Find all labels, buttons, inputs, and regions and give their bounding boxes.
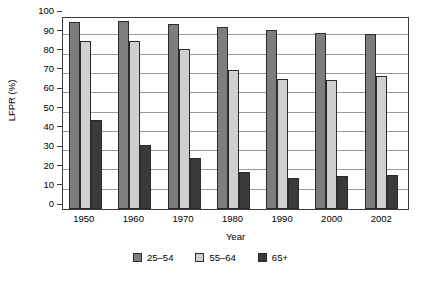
y-axis-tick-label: 50 xyxy=(43,103,57,113)
bar-group xyxy=(162,18,211,209)
bar-group xyxy=(112,18,161,209)
y-axis-tick: 90 xyxy=(43,24,62,36)
y-axis-tick-label: 60 xyxy=(43,83,57,93)
legend-item[interactable]: 25–54 xyxy=(133,252,173,263)
y-axis-tick-label: 20 xyxy=(43,161,57,171)
x-axis-tick-label: 1970 xyxy=(161,212,211,228)
x-axis-tick-label: 1990 xyxy=(260,212,310,228)
y-axis-tick-label: 90 xyxy=(43,26,57,36)
y-axis-tick-label: 10 xyxy=(43,180,57,190)
x-axis-tick-label: 2000 xyxy=(310,212,360,228)
legend-item[interactable]: 55–64 xyxy=(195,252,235,263)
bar xyxy=(387,175,398,209)
y-axis-tick: 70 xyxy=(43,63,62,75)
chart-figure: LFPR (%) 0102030405060708090100 19501960… xyxy=(0,0,421,282)
y-axis-tick-label: 100 xyxy=(38,6,57,16)
plot-area xyxy=(62,17,409,210)
y-axis-tick: 0 xyxy=(49,198,62,210)
bar xyxy=(168,24,179,209)
bar xyxy=(91,120,102,209)
bar-group xyxy=(260,18,309,209)
bar-group xyxy=(63,18,112,209)
bar-groups xyxy=(63,18,408,209)
bar xyxy=(129,41,140,209)
bar xyxy=(80,41,91,209)
legend-swatch xyxy=(258,253,267,262)
legend-label: 25–54 xyxy=(147,252,173,263)
legend-swatch xyxy=(133,253,142,262)
x-axis-tick-label: 1950 xyxy=(62,212,112,228)
y-axis-tick-label: 30 xyxy=(43,141,57,151)
y-axis-tick: 10 xyxy=(43,179,62,191)
y-axis-tick-label: 40 xyxy=(43,122,57,132)
bar xyxy=(337,176,348,209)
bar xyxy=(376,76,387,209)
y-axis-tick-mark xyxy=(57,11,62,12)
x-axis-tick-label: 2002 xyxy=(359,212,409,228)
y-axis-tick: 60 xyxy=(43,82,62,94)
bar-group xyxy=(359,18,408,209)
bar xyxy=(315,33,326,209)
bar xyxy=(277,79,288,209)
y-axis-ticks: 0102030405060708090100 xyxy=(40,17,62,210)
bar-group xyxy=(211,18,260,209)
y-axis-tick-label: 80 xyxy=(43,45,57,55)
bar xyxy=(266,30,277,209)
bar xyxy=(228,70,239,209)
x-axis-title: Year xyxy=(62,231,409,242)
y-axis-tick-label: 70 xyxy=(43,64,57,74)
x-axis-tick-label: 1980 xyxy=(211,212,261,228)
legend-swatch xyxy=(195,253,204,262)
bar xyxy=(217,27,228,209)
bar xyxy=(140,145,151,209)
y-axis-tick: 50 xyxy=(43,102,62,114)
y-axis-title: LFPR (%) xyxy=(2,0,22,200)
legend-item[interactable]: 65+ xyxy=(258,252,288,263)
bar-group xyxy=(309,18,358,209)
x-axis-tick-labels: 1950196019701980199020002002 xyxy=(62,212,409,228)
bar xyxy=(179,49,190,209)
y-axis-tick-label: 0 xyxy=(49,199,57,209)
y-axis-tick: 100 xyxy=(38,5,62,17)
y-axis-tick: 30 xyxy=(43,140,62,152)
bar xyxy=(288,178,299,209)
chart-legend: 25–5455–6465+ xyxy=(0,252,421,263)
bar xyxy=(118,21,129,209)
y-axis-tick: 20 xyxy=(43,159,62,171)
legend-label: 65+ xyxy=(272,252,288,263)
bar xyxy=(365,34,376,209)
bar xyxy=(239,172,250,209)
bar xyxy=(190,158,201,209)
y-axis-tick: 80 xyxy=(43,44,62,56)
bar xyxy=(69,22,80,209)
y-axis-tick: 40 xyxy=(43,121,62,133)
y-axis-title-text: LFPR (%) xyxy=(7,79,18,121)
legend-label: 55–64 xyxy=(209,252,235,263)
x-axis-tick-label: 1960 xyxy=(112,212,162,228)
bar xyxy=(326,80,337,209)
